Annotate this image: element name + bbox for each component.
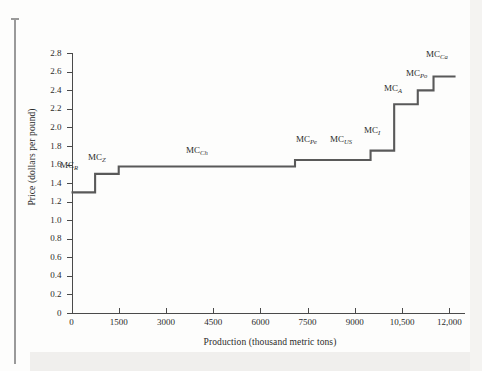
step-label-ca: MCCa [426, 50, 448, 59]
step-label-a: MCA [384, 84, 402, 93]
step-label-us: MCUS [330, 135, 352, 144]
step-label-ch: MCCh [186, 146, 208, 155]
page-background: Price (dollars per pound) Production (th… [0, 0, 482, 371]
step-label-text: MC [60, 160, 74, 170]
step-label-subscript: Ca [440, 53, 448, 60]
step-label-text: MC [296, 134, 310, 144]
step-label-r: MCR [60, 161, 78, 170]
step-label-text: MC [384, 83, 398, 93]
marginal-cost-step-chart: Price (dollars per pound) Production (th… [0, 0, 482, 371]
step-label-text: MC [406, 68, 420, 78]
step-label-subscript: A [398, 87, 402, 94]
step-label-subscript: Pe [310, 138, 317, 145]
step-label-text: MC [330, 134, 344, 144]
step-label-subscript: R [74, 164, 78, 171]
step-label-subscript: Z [102, 156, 106, 163]
step-label-pe: MCPe [296, 135, 317, 144]
step-label-z: MCZ [88, 153, 106, 162]
step-label-po: MCPo [406, 69, 427, 78]
step-label-text: MC [186, 145, 200, 155]
step-label-text: MC [364, 125, 378, 135]
step-label-subscript: Ch [200, 149, 208, 156]
step-label-subscript: Po [420, 72, 427, 79]
step-label-i: MCI [364, 126, 380, 135]
step-curve [0, 0, 482, 371]
step-label-subscript: I [378, 129, 380, 136]
step-label-text: MC [426, 49, 440, 59]
step-label-subscript: US [344, 138, 352, 145]
step-label-text: MC [88, 152, 102, 162]
